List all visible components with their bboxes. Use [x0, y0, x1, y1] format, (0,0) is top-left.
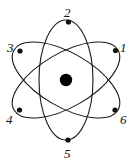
electron-dot-1 [113, 48, 118, 53]
atom-model-diagram: 1 2 3 4 5 6 [0, 0, 135, 165]
electron-dot-2 [66, 19, 71, 24]
nucleus [60, 74, 72, 86]
electron-dot-4 [17, 107, 22, 112]
atom-diagram-canvas [0, 0, 135, 165]
electron-dot-5 [65, 137, 70, 142]
electron-label-1: 1 [120, 41, 127, 54]
electron-label-2: 2 [64, 6, 71, 19]
electron-label-4: 4 [6, 113, 13, 126]
electron-dot-3 [17, 48, 22, 53]
electron-label-5: 5 [64, 147, 71, 160]
electron-dot-6 [112, 107, 117, 112]
electron-label-6: 6 [120, 113, 127, 126]
electron-label-3: 3 [7, 41, 14, 54]
